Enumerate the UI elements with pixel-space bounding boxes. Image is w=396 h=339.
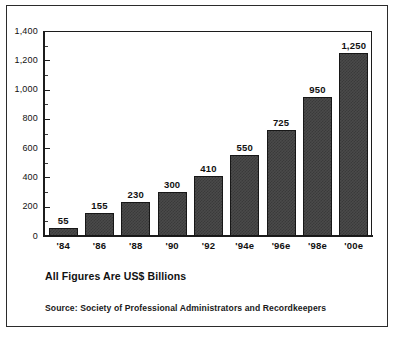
bar-slot: 725 — [266, 31, 296, 236]
bar-slot: 300 — [157, 31, 187, 236]
bar-value-label: 1,250 — [324, 41, 384, 51]
y-axis-tick-label: 1,400 — [14, 27, 38, 36]
source-caption: Source: Society of Professional Administ… — [45, 303, 326, 313]
y-axis-tick-label: 400 — [22, 173, 38, 182]
bar-slot: 1,250 — [339, 31, 369, 236]
y-axis-tick-label: 1,000 — [14, 85, 38, 94]
x-axis-tick-label: '00e — [339, 240, 369, 254]
x-axis-tick-label: '94e — [230, 240, 260, 254]
y-axis-tick-label: 0 — [33, 232, 38, 241]
bar[interactable] — [49, 228, 78, 236]
x-axis-tick-label: '92 — [193, 240, 223, 254]
x-axis-tick-label: '84 — [48, 240, 78, 254]
bar[interactable] — [121, 202, 150, 236]
y-axis-tick-labels: 02004006008001,0001,2001,400 — [0, 0, 38, 339]
bar-slot: 230 — [121, 31, 151, 236]
bar-slot: 550 — [230, 31, 260, 236]
bar[interactable] — [303, 97, 332, 236]
chart-figure: 02004006008001,0001,2001,400 55155230300… — [0, 0, 396, 339]
bar[interactable] — [158, 192, 187, 236]
bar[interactable] — [230, 155, 259, 236]
y-axis-tick-label: 200 — [22, 202, 38, 211]
x-axis-tick-labels: '84'86'88'90'92'94e'96e'98e'00e — [45, 240, 372, 254]
x-axis-tick-label: '88 — [121, 240, 151, 254]
bar[interactable] — [267, 130, 296, 236]
units-caption: All Figures Are US$ Billions — [45, 270, 186, 282]
y-axis-tick-label: 800 — [22, 114, 38, 123]
bar[interactable] — [85, 213, 114, 236]
x-axis-tick-label: '98e — [302, 240, 332, 254]
bar-slot: 410 — [193, 31, 223, 236]
bar[interactable] — [194, 176, 223, 236]
x-axis-tick-label: '86 — [84, 240, 114, 254]
y-axis-tick-label: 1,200 — [14, 56, 38, 65]
y-axis-tick-label: 600 — [22, 144, 38, 153]
bar-slot: 950 — [302, 31, 332, 236]
x-axis-tick-label: '90 — [157, 240, 187, 254]
bar-slot: 155 — [84, 31, 114, 236]
x-axis-tick-label: '96e — [266, 240, 296, 254]
bar[interactable] — [339, 53, 368, 236]
bar-series: 551552303004105507259501,250 — [45, 31, 372, 236]
